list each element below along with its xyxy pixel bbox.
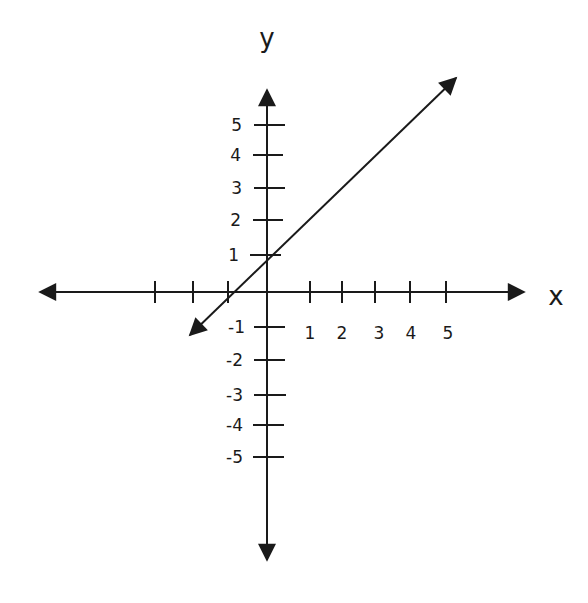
x-axis-label: x: [548, 281, 563, 311]
y-axis-label: y: [259, 23, 274, 53]
x-tick-label: 5: [443, 323, 454, 343]
line-y-equals-x-plus-1: [190, 78, 456, 335]
x-tick-labels: 1 2 3 4 5: [305, 323, 454, 343]
y-tick-label: 4: [230, 145, 241, 165]
y-tick-label: 2: [230, 210, 241, 230]
y-tick-label: -1: [228, 317, 245, 337]
y-tick-label: -3: [226, 385, 243, 405]
y-tick-label: -4: [226, 415, 243, 435]
y-tick-label: 3: [231, 178, 242, 198]
y-tick-label: -2: [226, 350, 243, 370]
x-tick-label: 4: [406, 323, 417, 343]
x-tick-label: 2: [337, 323, 348, 343]
x-tick-label: 1: [305, 323, 316, 343]
y-tick-label: 5: [231, 115, 242, 135]
coordinate-plane: y x 1 2 3 4 5 5 4 3 2 1 -1 -2 -3 -4 -5: [0, 0, 588, 603]
y-tick-label: 1: [228, 245, 239, 265]
y-tick-label: -5: [226, 447, 243, 467]
x-tick-label: 3: [374, 323, 385, 343]
